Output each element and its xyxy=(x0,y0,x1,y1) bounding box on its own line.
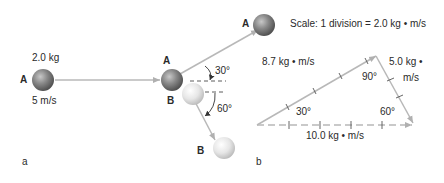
panel-b-label: b xyxy=(256,157,262,167)
ball-a-after xyxy=(253,14,275,36)
ball-a-initial xyxy=(32,69,54,91)
ball-a-collision xyxy=(161,69,183,91)
angle-60-triangle-label: 60° xyxy=(380,107,395,117)
ball-a-label: A xyxy=(20,75,27,85)
ball-b-after-label: B xyxy=(197,146,204,156)
ball-b-collision xyxy=(182,83,204,105)
side-b-momentum-line2: m/s xyxy=(403,73,419,83)
angle-30-triangle-label: 30° xyxy=(296,107,311,117)
angle-90-label: 90° xyxy=(362,72,377,82)
ball-a-mass-label: 2.0 kg xyxy=(32,53,59,63)
angle-60-label: 60° xyxy=(217,104,232,114)
angle-arc-30 xyxy=(205,66,211,80)
panel-a-label: a xyxy=(22,157,28,167)
angle-arc-60 xyxy=(205,93,215,116)
ball-a-speed-label: 5 m/s xyxy=(32,96,56,106)
side-b-momentum-line1: 5.0 kg • xyxy=(389,57,423,67)
collision-b-label: B xyxy=(167,96,174,106)
scale-label: Scale: 1 division = 2.0 kg • m/s xyxy=(290,19,426,29)
angle-30-label: 30° xyxy=(215,66,230,76)
collision-a-label: A xyxy=(163,56,170,66)
ball-a-after-label: A xyxy=(242,19,249,29)
ball-b-after xyxy=(213,137,235,159)
side-a-momentum-label: 8.7 kg • m/s xyxy=(262,57,314,67)
resultant-momentum-label: 10.0 kg • m/s xyxy=(306,131,364,141)
